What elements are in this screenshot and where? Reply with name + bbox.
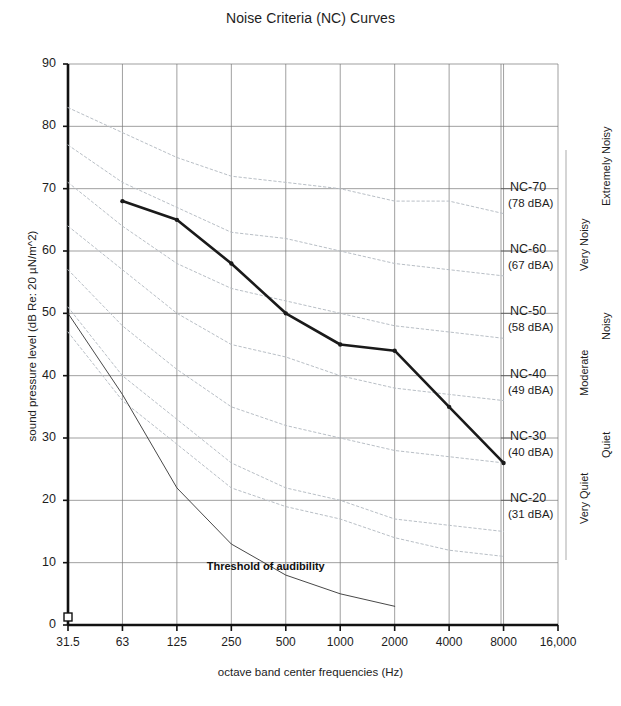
y-tick-label: 10 bbox=[26, 555, 56, 569]
nc-level-label: NC-60 bbox=[510, 242, 546, 256]
nc-level-label: NC-30 bbox=[510, 429, 546, 443]
y-tick-label: 50 bbox=[26, 305, 56, 319]
category-band-label: Extremely Noisy bbox=[600, 126, 612, 205]
y-tick-label: 70 bbox=[26, 181, 56, 195]
plot-canvas bbox=[0, 0, 621, 706]
y-tick-label: 0 bbox=[26, 617, 56, 631]
y-tick-label: 80 bbox=[26, 118, 56, 132]
x-tick-label: 500 bbox=[256, 635, 316, 649]
nc-level-dba: (40 dBA) bbox=[508, 446, 553, 458]
category-band-label: Very Quiet bbox=[578, 472, 590, 523]
category-band-label: Quiet bbox=[600, 432, 612, 458]
nc-level-dba: (67 dBA) bbox=[508, 259, 553, 271]
nc-curves-chart: Noise Criteria (NC) Curves sound pressur… bbox=[0, 0, 621, 706]
nc-level-dba: (58 dBA) bbox=[508, 321, 553, 333]
category-band-label: Noisy bbox=[600, 312, 612, 340]
threshold-of-audibility-label: Threshold of audibility bbox=[206, 559, 326, 573]
x-tick-label: 8000 bbox=[474, 635, 534, 649]
x-tick-label: 1000 bbox=[310, 635, 370, 649]
y-tick-label: 40 bbox=[26, 368, 56, 382]
nc-level-dba: (31 dBA) bbox=[508, 508, 553, 520]
y-tick-label: 20 bbox=[26, 492, 56, 506]
nc-level-label: NC-40 bbox=[510, 367, 546, 381]
nc-level-label: NC-20 bbox=[510, 491, 546, 505]
nc-level-dba: (78 dBA) bbox=[508, 197, 553, 209]
category-band-label: Very Noisy bbox=[578, 219, 590, 272]
nc-level-label: NC-50 bbox=[510, 304, 546, 318]
x-tick-label: 125 bbox=[147, 635, 207, 649]
y-tick-label: 30 bbox=[26, 430, 56, 444]
category-band-label: Moderate bbox=[578, 349, 590, 395]
nc-level-dba: (49 dBA) bbox=[508, 384, 553, 396]
x-tick-label: 4000 bbox=[419, 635, 479, 649]
x-tick-label: 31.5 bbox=[38, 635, 98, 649]
x-tick-label: 2000 bbox=[365, 635, 425, 649]
y-tick-label: 60 bbox=[26, 243, 56, 257]
nc-level-label: NC-70 bbox=[510, 180, 546, 194]
x-tick-label: 250 bbox=[201, 635, 261, 649]
y-tick-label: 90 bbox=[26, 56, 56, 70]
x-tick-label: 63 bbox=[92, 635, 152, 649]
x-tick-label: 16,000 bbox=[528, 635, 588, 649]
